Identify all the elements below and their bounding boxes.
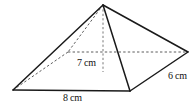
height-dimension-label: 7 cm — [76, 57, 97, 68]
base-side-dimension-label: 6 cm — [167, 70, 188, 81]
hidden-edge-apex-to-back-left — [68, 5, 103, 52]
edge-base-front — [13, 90, 130, 91]
edge-apex-to-front-left — [13, 5, 103, 90]
pyramid-drawing — [0, 0, 196, 107]
hidden-edge-front-left-to-back-left — [13, 52, 68, 90]
base-front-dimension-label: 8 cm — [62, 92, 83, 103]
pyramid-figure: 7 cm 8 cm 6 cm — [0, 0, 196, 107]
